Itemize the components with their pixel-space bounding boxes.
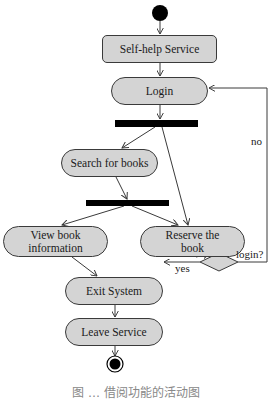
fork-bar-2 [86,200,169,206]
activity-exit-system: Exit System [65,277,163,305]
activity-label: Search for books [71,157,149,170]
guard-no-label: no [251,135,262,147]
fork-bar-1 [115,120,198,127]
activity-label-line1: Reserve the [166,229,220,242]
activity-search-for-books: Search for books [61,149,158,177]
activity-leave-service: Leave Service [65,318,163,346]
activity-label: Self-help Service [120,43,200,56]
figure-caption: 图 … 借阅功能的活动图 [0,383,272,400]
activity-login: Login [111,77,208,105]
decision-label: login? [236,248,264,260]
activity-label: Leave Service [81,326,146,339]
activity-label: Login [146,85,173,98]
activity-label: Exit System [86,285,142,298]
initial-node-icon [152,5,168,21]
activity-label-line1: View book [30,229,80,242]
activity-view-book-information: View book information [3,226,108,257]
activity-reserve-the-book: Reserve the book [140,226,245,257]
activity-self-help-service: Self-help Service [102,35,217,63]
guard-yes-label: yes [175,262,190,274]
activity-label-line2: book [181,242,204,255]
activity-label-line2: information [28,242,82,255]
